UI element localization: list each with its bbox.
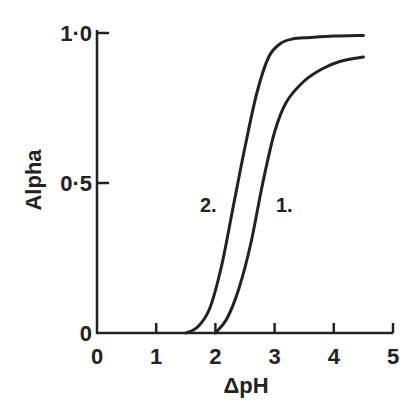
x-tick-label: 2 bbox=[209, 344, 221, 369]
chart: 012345 00·51·0 1.2. ΔpH Alpha bbox=[0, 0, 415, 419]
curve-2 bbox=[186, 35, 364, 333]
plot-area: 012345 00·51·0 1.2. bbox=[60, 21, 399, 369]
curve-labels: 1.2. bbox=[200, 194, 293, 216]
curve-label-1: 1. bbox=[276, 194, 293, 216]
x-ticks: 012345 bbox=[91, 323, 399, 369]
curves bbox=[186, 35, 364, 333]
x-tick-label: 1 bbox=[150, 344, 162, 369]
x-tick-label: 0 bbox=[91, 344, 103, 369]
x-tick-label: 3 bbox=[268, 344, 280, 369]
y-tick-label: 0·5 bbox=[60, 171, 92, 196]
y-axis-title: Alpha bbox=[21, 149, 46, 211]
y-ticks: 00·51·0 bbox=[60, 21, 109, 346]
curve-label-2: 2. bbox=[200, 194, 217, 216]
x-tick-label: 4 bbox=[328, 344, 341, 369]
y-tick-label: 1·0 bbox=[60, 21, 92, 46]
x-tick-label: 5 bbox=[387, 344, 399, 369]
x-axis-title: ΔpH bbox=[223, 373, 268, 398]
y-tick-label: 0 bbox=[80, 321, 92, 346]
